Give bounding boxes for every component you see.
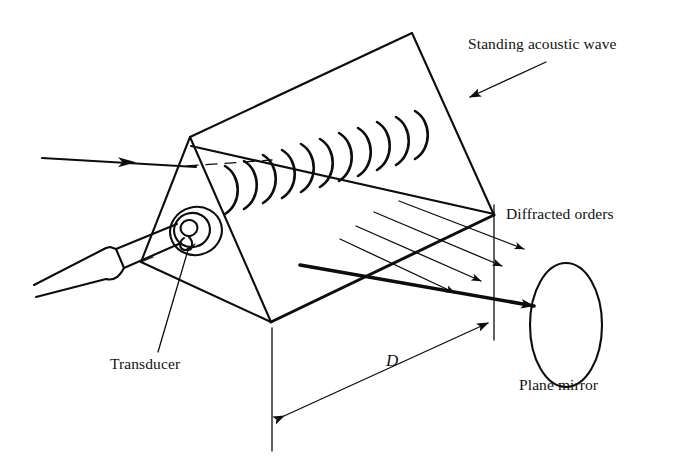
diagram-canvas: [0, 0, 677, 465]
plane-mirror-ellipse: [530, 263, 602, 387]
label-standing-acoustic-wave: Standing acoustic wave: [468, 36, 617, 52]
transducer-assembly: [165, 201, 227, 260]
transducer-core: [179, 218, 199, 238]
leader-transducer: [158, 250, 188, 352]
leader-lines: [158, 62, 546, 352]
leader-standing-acoustic-wave: [470, 62, 546, 97]
label-transducer: Transducer: [110, 356, 180, 372]
acousto-optic-cell: [141, 33, 494, 322]
cable-upper-wall-far: [34, 248, 106, 285]
plane-mirror: [530, 263, 602, 387]
distance-dimension: [272, 205, 494, 451]
standing-acoustic-wave-arcs: [225, 111, 428, 214]
wave-arc: [320, 139, 333, 187]
wave-arc: [301, 144, 314, 192]
cable-collar-edge: [116, 249, 124, 268]
wave-arc: [377, 122, 390, 170]
prism-left-bottom-edge: [141, 262, 271, 322]
label-distance-d: D: [386, 352, 398, 369]
label-plane-mirror: Plane mirror: [519, 377, 598, 393]
wave-arc: [396, 117, 409, 165]
wave-arc: [282, 150, 295, 198]
wave-arc: [244, 161, 257, 209]
transducer-cable: [34, 224, 181, 297]
prism-top-ridge: [190, 33, 412, 137]
diffracted-ray-4: [340, 239, 455, 293]
wave-arc: [358, 128, 371, 176]
wave-arc: [225, 166, 238, 214]
figure-root: Standing acoustic wave Diffracted orders…: [0, 0, 677, 465]
wave-arc: [415, 111, 428, 159]
cable-lower-wall-far: [36, 279, 106, 297]
incident-beam: [42, 157, 196, 167]
prism-left-edge: [141, 137, 190, 262]
wave-arc: [339, 133, 352, 181]
cable-lower-wall-near: [124, 243, 181, 268]
incident-beam-line: [42, 158, 196, 167]
prism-front-vertical-edge: [190, 137, 271, 322]
prism-back-right-edge: [412, 33, 494, 215]
label-diffracted-orders: Diffracted orders: [506, 206, 614, 222]
diffracted-main-beam: [300, 265, 534, 306]
prism-base-back-edge: [271, 215, 494, 322]
cable-collar-bend: [106, 268, 124, 279]
cable-collar-top: [106, 247, 116, 249]
